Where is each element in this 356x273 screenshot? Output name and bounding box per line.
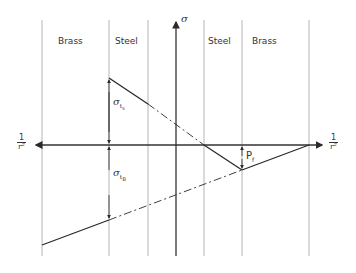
- steel-radial-solid: [204, 145, 242, 170]
- sigma-tb-label: σtB: [113, 168, 126, 182]
- sigma-ts-label: σts: [113, 97, 125, 111]
- subscript-s: s: [122, 105, 125, 111]
- pf-label: Pf: [246, 151, 254, 163]
- zone-label-brass-left: Brass: [58, 37, 83, 46]
- zone-label-steel-left: Steel: [115, 37, 138, 46]
- r2-axis-label-left: 1 r²: [17, 134, 26, 151]
- stress-diagram: [0, 0, 356, 273]
- zone-label-steel-right: Steel: [208, 37, 231, 46]
- r2-axis-label-right: 1 r²: [329, 134, 338, 151]
- brass-stress-solid: [42, 220, 109, 245]
- fraction-denominator: r²: [18, 143, 25, 151]
- sigma-axis-label: σ: [181, 14, 188, 24]
- subscript-f: f: [252, 156, 254, 163]
- sigma-symbol: σ: [113, 167, 120, 178]
- sigma-symbol: σ: [113, 96, 120, 107]
- subscript-b: B: [122, 176, 126, 182]
- zone-label-brass-right: Brass: [252, 37, 277, 46]
- fraction-denominator: r²: [330, 143, 337, 151]
